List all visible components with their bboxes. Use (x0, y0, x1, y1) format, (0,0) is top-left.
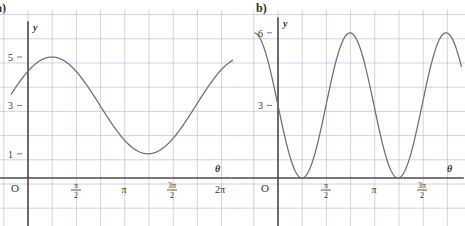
plot-area: yθ531Oπ2π3π22π (0, 10, 233, 226)
fraction-denominator: 2 (324, 191, 328, 200)
graph-b: yθ63Oπ2π3π2 (232, 0, 465, 226)
curve-line (255, 33, 461, 178)
y-tick-label: 6 (258, 28, 263, 39)
x-tick-label-fraction: 3π2 (167, 181, 177, 200)
x-tick-label: π (371, 184, 376, 195)
fraction-numerator: π (324, 181, 328, 190)
y-tick-label: 3 (8, 100, 13, 111)
x-tick-label: 2π (215, 184, 225, 195)
panel-a: a) yθ531Oπ2π3π22π (0, 0, 233, 226)
fraction-numerator: 3π (168, 181, 176, 190)
fraction-denominator: 2 (170, 191, 174, 200)
y-axis-label: y (32, 22, 38, 33)
origin-label: O (11, 182, 19, 194)
y-tick-label: 3 (258, 100, 263, 111)
fraction-denominator: 2 (74, 191, 78, 200)
theta-axis-label: θ (447, 163, 453, 174)
fraction-numerator: 3π (418, 181, 426, 190)
x-tick-label: π (121, 184, 126, 195)
fraction-numerator: π (74, 181, 78, 190)
grid (0, 10, 233, 226)
graph-a: yθ531Oπ2π3π22π (0, 0, 233, 226)
x-tick-label-fraction: 3π2 (417, 181, 427, 200)
origin-label: O (261, 182, 269, 194)
y-tick-label: 1 (8, 149, 13, 160)
plot-area: yθ63Oπ2π3π2 (232, 10, 465, 226)
y-axis-label: y (282, 18, 288, 29)
curve-line (11, 57, 233, 154)
theta-axis-label: θ (215, 163, 221, 174)
y-tick-label: 5 (8, 52, 13, 63)
fraction-denominator: 2 (420, 191, 424, 200)
panel-b: b) yθ63Oπ2π3π2 (232, 0, 465, 226)
